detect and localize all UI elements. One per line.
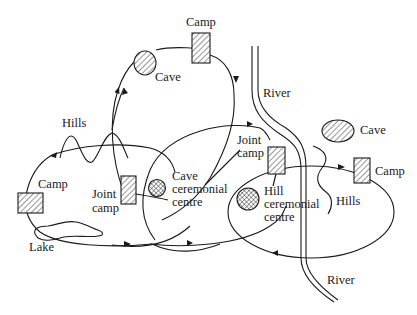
cave-top-marker xyxy=(134,51,156,75)
label-lake: Lake xyxy=(29,240,54,254)
hill-ceremonial-centre-marker xyxy=(237,188,259,210)
label-hills-right: Hills xyxy=(336,194,360,208)
label-hill-cer-1: Hill xyxy=(264,184,284,198)
camp-right-marker xyxy=(354,158,370,183)
movement-diagram: Camp Cave Hills Camp Joint camp Lake Cav… xyxy=(0,0,417,315)
label-cave-right: Cave xyxy=(360,123,386,137)
cave-cer-label-leader xyxy=(205,150,240,185)
label-cave-cer-1: Cave xyxy=(172,169,198,183)
label-joint-camp-left-1: Joint xyxy=(92,187,117,201)
joint-camp-left-marker xyxy=(121,176,136,204)
label-joint-camp-right-1: Joint xyxy=(237,133,262,147)
lake-outline xyxy=(35,221,103,240)
joint-camp-right-marker xyxy=(268,147,285,174)
label-camp-top: Camp xyxy=(186,15,216,29)
cave-right-marker xyxy=(322,120,354,142)
label-hill-cer-3: centre xyxy=(264,210,295,224)
label-cave-cer-3: centre xyxy=(172,195,203,209)
label-cave-top: Cave xyxy=(155,70,181,84)
label-cave-cer-2: ceremonial xyxy=(172,182,228,196)
hills-left-wave xyxy=(60,133,128,162)
label-camp-left: Camp xyxy=(38,177,68,191)
label-hill-cer-2: ceremonial xyxy=(264,197,320,211)
label-joint-camp-right-2: camp xyxy=(237,146,264,160)
label-river-bottom: River xyxy=(327,273,356,287)
arrow-head xyxy=(272,250,278,256)
label-river-top: River xyxy=(263,86,292,100)
arrow-head xyxy=(233,76,239,83)
label-joint-camp-left-2: camp xyxy=(92,201,119,215)
camp-left-marker xyxy=(18,193,43,213)
label-hills-left: Hills xyxy=(62,116,86,130)
label-camp-right: Camp xyxy=(375,164,405,178)
cave-ceremonial-centre-marker xyxy=(149,180,166,197)
camp-top-marker xyxy=(192,33,210,63)
